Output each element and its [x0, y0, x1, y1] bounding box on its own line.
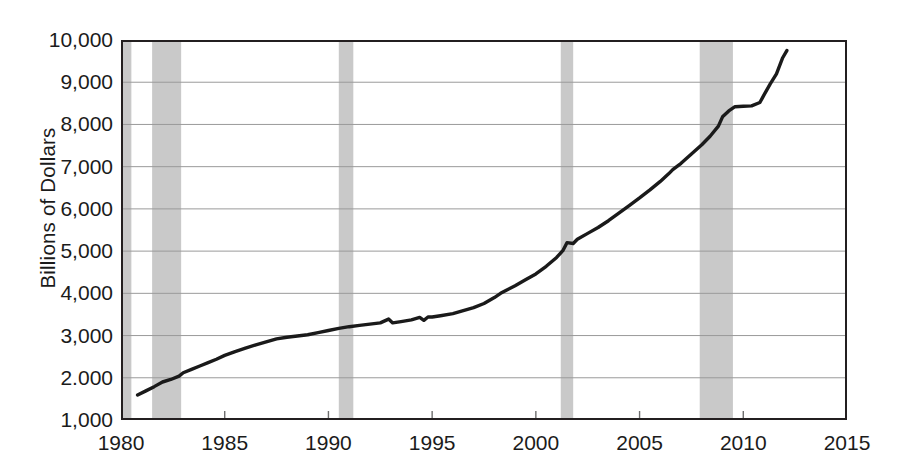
- x-tick-label: 1990: [268, 432, 388, 453]
- axis-tick-marks: [225, 411, 744, 420]
- data-series-layer: [138, 51, 787, 396]
- recession-band: [152, 40, 181, 420]
- recession-band: [700, 40, 733, 420]
- chart-canvas: [121, 40, 847, 420]
- data-line: [138, 51, 787, 396]
- recession-band: [339, 40, 354, 420]
- plot-area: [121, 40, 847, 420]
- x-tick-label: 1995: [372, 432, 492, 453]
- x-tick-label: 2015: [787, 432, 897, 453]
- chart-figure: Billions of Dollars 1,0002.0003,0004,000…: [0, 0, 897, 476]
- recession-bands: [121, 40, 733, 420]
- gridlines: [121, 82, 847, 378]
- x-tick-label: 2005: [580, 432, 700, 453]
- x-tick-label: 1980: [61, 432, 181, 453]
- recession-band: [121, 40, 131, 420]
- recession-band: [561, 40, 573, 420]
- x-tick-label: 1985: [165, 432, 285, 453]
- x-tick-label: 2000: [476, 432, 596, 453]
- x-tick-label: 2010: [683, 432, 803, 453]
